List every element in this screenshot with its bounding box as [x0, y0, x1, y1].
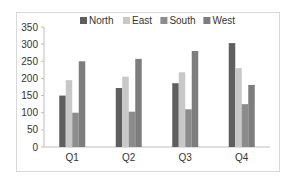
- y-tick-label: 100: [21, 107, 38, 118]
- bar-chart: 050100150200250300350Q1Q2Q3Q4NorthEastSo…: [0, 0, 295, 181]
- x-tick-label: Q3: [179, 152, 193, 163]
- bar-north-q3: [172, 83, 179, 147]
- bar-west-q2: [135, 59, 142, 147]
- x-tick-label: Q2: [122, 152, 136, 163]
- legend-label-south: South: [169, 15, 195, 26]
- y-tick-label: 150: [21, 90, 38, 101]
- legend-swatch-west: [203, 17, 210, 24]
- y-tick-label: 300: [21, 39, 38, 50]
- y-tick-label: 350: [21, 22, 38, 33]
- bar-east-q4: [235, 68, 242, 147]
- bar-west-q3: [192, 51, 199, 147]
- bar-east-q2: [122, 77, 129, 147]
- legend-label-west: West: [212, 15, 235, 26]
- legend-label-north: North: [89, 15, 113, 26]
- x-tick-label: Q1: [66, 152, 80, 163]
- y-tick-label: 50: [27, 124, 39, 135]
- y-tick-label: 200: [21, 73, 38, 84]
- bar-north-q4: [229, 43, 236, 147]
- legend-swatch-north: [80, 17, 87, 24]
- bar-east-q3: [179, 72, 186, 147]
- x-tick-label: Q4: [235, 152, 249, 163]
- legend-swatch-east: [123, 17, 130, 24]
- bar-west-q4: [248, 85, 255, 147]
- bar-south-q4: [242, 104, 249, 147]
- bar-south-q2: [129, 112, 136, 147]
- bar-north-q1: [59, 96, 66, 147]
- legend-label-east: East: [132, 15, 152, 26]
- legend-swatch-south: [160, 17, 167, 24]
- bar-south-q1: [72, 113, 79, 147]
- bar-south-q3: [185, 109, 192, 147]
- bar-east-q1: [66, 80, 73, 147]
- bar-north-q2: [116, 88, 123, 147]
- bar-west-q1: [79, 61, 86, 147]
- y-tick-label: 0: [32, 142, 38, 153]
- y-tick-label: 250: [21, 56, 38, 67]
